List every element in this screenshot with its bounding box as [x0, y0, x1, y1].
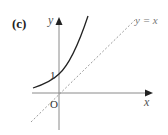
graph-canvas: (c) y x O 1 y = x — [0, 0, 168, 135]
origin-label: O — [50, 98, 58, 110]
panel-label: (c) — [12, 16, 26, 31]
function-graph: (c) y x O 1 y = x — [0, 0, 168, 135]
y-axis-label: y — [47, 13, 54, 27]
y-axis-arrow-icon — [56, 17, 63, 25]
y-intercept-label: 1 — [50, 69, 56, 81]
exponential-curve — [33, 16, 88, 88]
identity-line — [31, 19, 136, 122]
x-axis-label: x — [143, 95, 150, 109]
identity-line-label: y = x — [134, 14, 158, 26]
